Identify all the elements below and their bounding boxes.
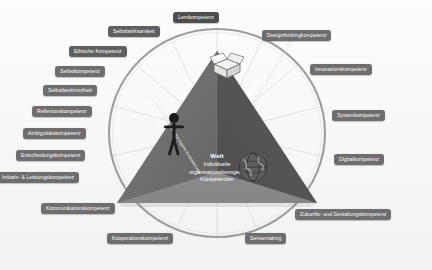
competence-model-diagram: Subjekt Individuelle personenbezogene Ko… xyxy=(106,26,328,240)
competence-chip-reflexionskompetenz[interactable]: Reflexionskompetenz xyxy=(32,106,92,117)
open-box-icon xyxy=(208,50,246,80)
competence-chip-entscheidungskompetenz[interactable]: Entscheidungskompetenz xyxy=(16,150,85,161)
competence-chip-innovationskompetenz[interactable]: Innovationskompetenz xyxy=(310,64,372,75)
globe-icon xyxy=(236,150,270,184)
competence-chip-ethische-kompetenz[interactable]: Ethische Kompetenz xyxy=(69,46,127,57)
competence-chip-ambiguitaetskompetenz[interactable]: Ambiguitätskompetenz xyxy=(23,128,86,139)
competence-chip-zukunfts-gestaltungskompetenz[interactable]: Zukunfts- und Gestaltungskompetenz xyxy=(295,209,391,220)
competence-chip-systemkompetenz[interactable]: Systemkompetenz xyxy=(332,110,385,121)
person-icon xyxy=(163,112,185,158)
competence-chip-digitalkompetenz[interactable]: Digitalkompetenz xyxy=(334,154,384,165)
competence-chip-selbstwirksamkeit[interactable]: Selbstwirksamkeit xyxy=(108,26,160,37)
competence-chip-lernkompetenz[interactable]: Lernkompetenz xyxy=(173,12,219,23)
diagram-canvas: Subjekt Individuelle personenbezogene Ko… xyxy=(0,0,432,270)
competence-chip-initiativ-leistungskompetenz[interactable]: Initiativ- & Leistungskompetenz xyxy=(0,172,79,183)
competence-chip-kooperationskompetenz[interactable]: Kooperationskompetenz xyxy=(107,233,173,244)
competence-chip-selbstkompetenz[interactable]: Selbstkompetenz xyxy=(55,66,105,77)
competence-chip-kommunikationskompetenz[interactable]: Kommunikationskompetenz xyxy=(41,203,115,214)
competence-chip-designthinkingkompetenz[interactable]: Designthinkingkompetenz xyxy=(262,30,331,41)
competence-chip-sensemaking[interactable]: Sensemaking xyxy=(245,233,286,244)
competence-chip-selbstbestimmtheit[interactable]: Selbstbestimmtheit xyxy=(43,85,97,96)
